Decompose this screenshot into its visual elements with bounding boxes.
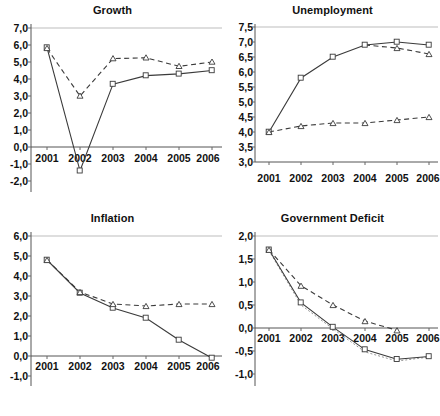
panel-growth: Growth 7,0 6,0 5,0 4,0 3,0 2,0 1,0 0,0 -… — [0, 0, 225, 208]
chart-grid: Growth 7,0 6,0 5,0 4,0 3,0 2,0 1,0 0,0 -… — [0, 0, 440, 416]
panel-deficit: Government Deficit 2,0 1,5 1,0 0,5 0,0 -… — [225, 208, 440, 416]
unemployment-plot — [225, 0, 440, 208]
inflation-plot — [0, 208, 225, 416]
deficit-plot — [225, 208, 440, 416]
panel-inflation: Inflation 6,0 5,0 4,0 3,0 2,0 1,0 0,0 -1… — [0, 208, 225, 416]
growth-plot — [0, 0, 225, 208]
panel-unemployment: Unemployment 7,5 7,0 6,5 6,0 5,5 5,0 4,5… — [225, 0, 440, 208]
